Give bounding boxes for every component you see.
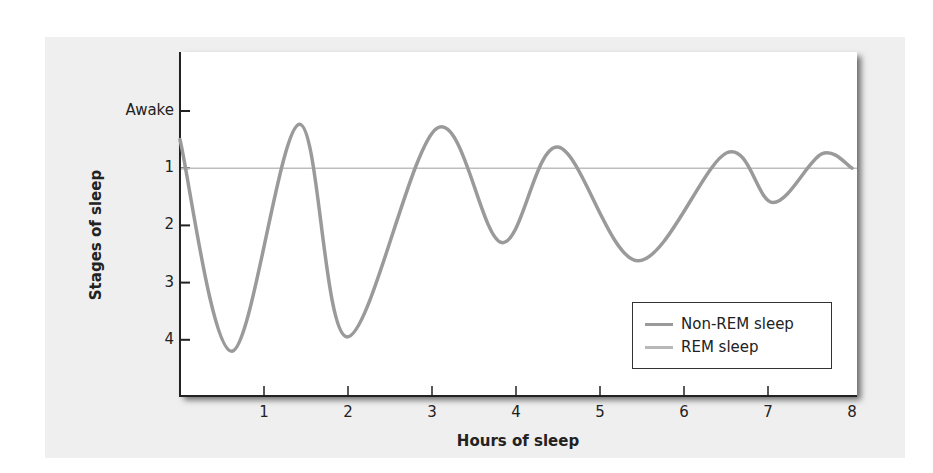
x-axis-title: Hours of sleep: [457, 432, 579, 450]
x-tick-label: 3: [417, 403, 447, 421]
y-tick-label: 3: [94, 273, 174, 291]
x-tick-label: 2: [333, 403, 363, 421]
y-tick-label: 2: [94, 215, 174, 233]
x-tick-label: 8: [837, 403, 867, 421]
x-tick-label: 1: [249, 403, 279, 421]
legend-item-rem: REM sleep: [645, 338, 759, 356]
legend-label-rem: REM sleep: [681, 338, 759, 356]
x-tick-label: 7: [753, 403, 783, 421]
chart-svg: [0, 0, 933, 473]
x-tick-label: 4: [501, 403, 531, 421]
x-tick-label: 6: [669, 403, 699, 421]
y-tick-label: 1: [94, 158, 174, 176]
x-tick-label: 5: [585, 403, 615, 421]
legend-label-non-rem: Non-REM sleep: [681, 315, 794, 333]
x-ticks: [264, 386, 768, 396]
legend-item-non-rem: Non-REM sleep: [645, 315, 794, 333]
legend-swatch-non-rem: [645, 323, 673, 326]
y-axis-title: Stages of sleep: [87, 170, 105, 300]
y-tick-label: Awake: [94, 101, 174, 119]
y-tick-label: 4: [94, 330, 174, 348]
legend-swatch-rem: [645, 346, 673, 349]
legend: Non-REM sleep REM sleep: [632, 302, 832, 369]
